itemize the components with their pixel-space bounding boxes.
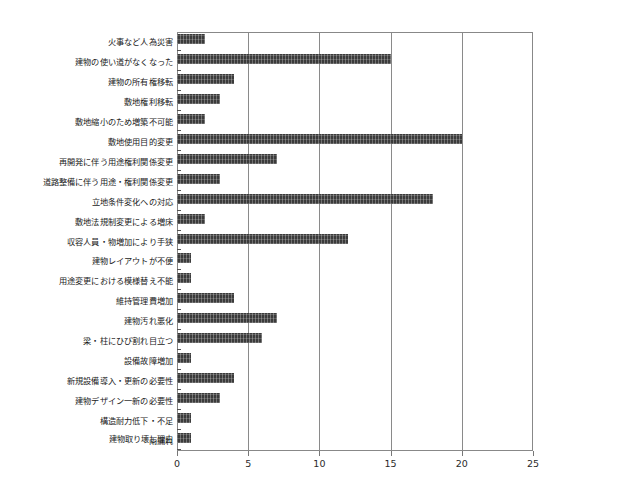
x-tick-label: 0 (174, 458, 180, 469)
category-label: 道路整備に伴う用途・権利関係変更 (43, 177, 173, 187)
category-labels: 火事など人為災害建物の使い道がなくなった建物の所有権移転敷地権利移転敷地縮小のた… (0, 32, 625, 451)
bar-chart: 火事など人為災害建物の使い道がなくなった建物の所有権移転敷地権利移転敷地縮小のた… (0, 0, 625, 503)
x-tick-mark (462, 451, 463, 456)
category-label: 設備故障増加 (124, 356, 173, 366)
category-label: 新規設備導入・更新の必要性 (67, 376, 173, 386)
category-label: 敷地縮小のため増築不可能 (75, 117, 173, 127)
x-tick-label: 5 (245, 458, 251, 469)
category-label: 再開発に伴う用途権利関係変更 (59, 157, 173, 167)
category-label: 建物汚れ悪化 (124, 316, 173, 326)
y-axis-title: 建物取り壊し理由 (109, 432, 173, 444)
x-tick-label: 20 (456, 458, 468, 469)
category-label: 敷地権利移転 (124, 97, 173, 107)
x-tick-mark (248, 451, 249, 456)
category-label: 立地条件変化への対応 (92, 197, 174, 207)
category-label: 火事など人為災害 (108, 37, 173, 47)
x-tick-label: 25 (527, 458, 539, 469)
x-tick-label: 10 (313, 458, 325, 469)
category-label: 用途変更における模様替え不能 (59, 276, 173, 286)
category-label: 建物の所有権移転 (108, 77, 173, 87)
category-label: 敷地法規制変更による増床 (75, 217, 173, 227)
category-label: 建物レイアウトが不便 (92, 256, 174, 266)
x-tick-label: 15 (385, 458, 397, 469)
x-tick-mark (177, 451, 178, 456)
category-label: 建物デザイン一新の必要性 (75, 396, 173, 406)
category-label: 収容人員・物増加により手狭 (67, 237, 173, 247)
category-label: 梁・柱にひび割れ目立つ (83, 336, 173, 346)
x-tick-mark (391, 451, 392, 456)
category-label: 維持管理費増加 (116, 296, 173, 306)
x-tick-mark (533, 451, 534, 456)
category-label: 敷地使用目的変更 (108, 137, 173, 147)
x-tick-mark (319, 451, 320, 456)
category-label: 構造耐力低下・不足 (100, 416, 173, 426)
category-label: 建物の使い道がなくなった (75, 57, 173, 67)
